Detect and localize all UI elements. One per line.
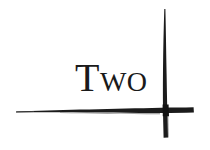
artwork-canvas: Two (0, 0, 210, 150)
ink-strokes-layer (0, 0, 210, 150)
vertical-brush-stroke (163, 9, 168, 138)
stroke-crossing-blot (163, 104, 169, 116)
